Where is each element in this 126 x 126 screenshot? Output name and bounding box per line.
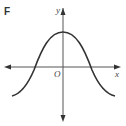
arrow-down-icon bbox=[61, 115, 66, 122]
x-axis-label: x bbox=[114, 69, 119, 79]
arrow-up-icon bbox=[61, 8, 66, 15]
y-axis-label: y bbox=[55, 5, 60, 15]
y-axis bbox=[61, 8, 66, 122]
arrow-left-icon bbox=[4, 65, 11, 70]
origin-label: O bbox=[54, 69, 61, 79]
chart-plot: y x O bbox=[0, 0, 126, 126]
